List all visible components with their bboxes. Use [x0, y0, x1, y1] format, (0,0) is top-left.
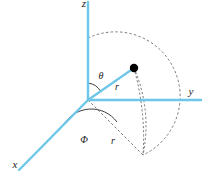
spherical-coordinates-figure: z y x θ Φ r r: [0, 0, 210, 173]
polar-arc: [88, 32, 180, 155]
construction-lines: [88, 32, 180, 155]
y-axis-label: y: [188, 85, 194, 97]
figure-labels: z y x θ Φ r r: [12, 0, 194, 170]
phi-label: Φ: [80, 134, 88, 145]
x-axis-label: x: [12, 158, 18, 170]
z-axis-label: z: [81, 0, 87, 9]
figure-canvas: z y x θ Φ r r: [0, 0, 210, 173]
x-axis-line: [19, 100, 88, 170]
theta-angle-arc: [88, 83, 101, 92]
radius-polar-label: r: [115, 81, 119, 92]
radius-vector-line: [88, 68, 134, 100]
theta-label: θ: [99, 70, 104, 81]
ellipse-edge-arc: [134, 68, 146, 155]
ground-projection-line: [88, 100, 143, 155]
plotted-point-marker: [130, 64, 138, 72]
radius-azimuth-label: r: [111, 135, 115, 146]
angle-arcs: [63, 83, 117, 126]
